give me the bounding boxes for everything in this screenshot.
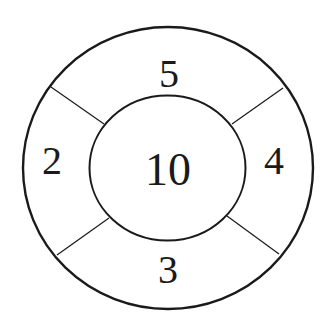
- segment-top-value: 5: [159, 51, 179, 96]
- center-value: 10: [145, 144, 191, 195]
- segment-bottom-value: 3: [158, 247, 178, 292]
- divider-lower-left: [57, 218, 109, 255]
- divider-lower-right: [227, 216, 279, 254]
- divider-upper-left: [51, 87, 104, 124]
- segment-left-value: 2: [42, 138, 62, 183]
- divider-upper-right: [232, 88, 283, 124]
- segment-right-value: 4: [264, 138, 284, 183]
- ring-diagram: 5 2 4 3 10: [0, 0, 331, 329]
